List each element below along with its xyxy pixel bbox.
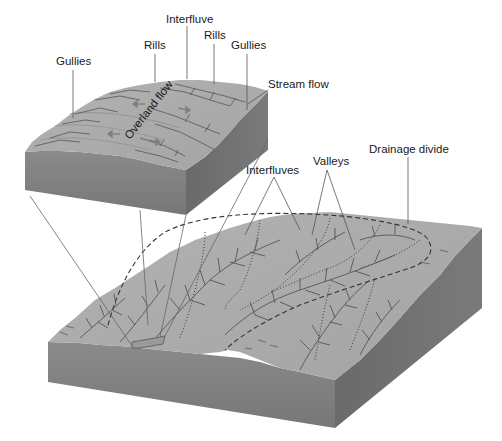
label-rills-left: Rills xyxy=(144,40,166,52)
label-interfluve: Interfluve xyxy=(166,14,213,26)
label-gullies-left: Gullies xyxy=(56,56,91,68)
label-drainage-divide: Drainage divide xyxy=(369,144,449,156)
label-gullies-right: Gullies xyxy=(231,40,266,52)
label-rills-right: Rills xyxy=(204,30,226,42)
main-block xyxy=(48,212,482,428)
label-interfluves: Interfluves xyxy=(246,165,299,177)
label-stream-flow: Stream flow xyxy=(268,79,329,91)
inset-block xyxy=(25,80,268,215)
label-valleys: Valleys xyxy=(313,156,349,168)
